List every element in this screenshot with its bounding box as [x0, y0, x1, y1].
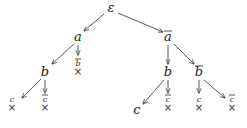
- node-a_bbar: b×: [74, 59, 82, 77]
- node-abar_b_c: c: [133, 102, 141, 117]
- nodes: εaab×bc×c×bbcc×c×c×: [8, 0, 236, 117]
- closed-cross-icon: ×: [74, 66, 82, 77]
- closed-cross-icon: ×: [195, 102, 203, 113]
- node-abar_bbar: b: [195, 64, 203, 79]
- node-label: b: [41, 64, 49, 79]
- node-label: a: [74, 29, 82, 44]
- tree-diagram: εaab×bc×c×bbcc×c×c×: [0, 0, 247, 128]
- closed-cross-icon: ×: [228, 102, 236, 113]
- edge-arrow-abar-to-abar_bbar: [174, 44, 194, 64]
- node-label: b: [164, 64, 172, 79]
- closed-cross-icon: ×: [41, 102, 49, 113]
- closed-cross-icon: ×: [8, 102, 16, 113]
- edge-arrow-root-to-a: [84, 14, 104, 31]
- node-abar_bbar_c: c×: [195, 95, 203, 113]
- node-a_b_cbar: c×: [41, 95, 49, 113]
- node-abar_b: b: [164, 64, 172, 79]
- node-root: ε: [108, 0, 115, 15]
- node-label: ε: [108, 0, 115, 15]
- node-abar_b_cbar: c×: [164, 95, 172, 113]
- node-label: c: [133, 102, 141, 117]
- node-abar_bbar_cbar: c×: [228, 95, 236, 113]
- node-a: a: [74, 29, 82, 44]
- edges: [22, 13, 225, 104]
- edge-arrow-abar_bbar-to-abar_bbar_cbar: [204, 80, 225, 98]
- edge-arrow-abar_b-to-abar_b_c: [143, 80, 164, 104]
- edge-arrow-root-to-abar: [118, 13, 163, 32]
- edge-arrow-a_b-to-a_b_c: [22, 79, 41, 98]
- edge-arrow-a-to-a_b: [52, 44, 74, 64]
- node-a_b_c: c×: [8, 95, 16, 113]
- closed-cross-icon: ×: [164, 102, 172, 113]
- node-a_b: b: [41, 64, 49, 79]
- node-abar: a: [164, 29, 172, 44]
